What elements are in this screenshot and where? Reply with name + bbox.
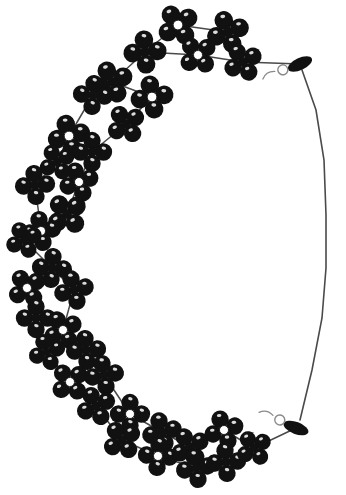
bead-highlight [170,424,175,427]
bead-highlight [156,416,161,419]
center-bead [65,377,75,387]
bead-highlight [82,282,87,285]
bead-highlight [63,118,68,121]
necklace-photograph: beaded-necklace [0,0,346,495]
bead-highlight [74,296,79,299]
bead-highlight [78,127,83,130]
bead-highlight [148,430,153,433]
bead-highlight [60,288,65,291]
flower-cluster [103,421,142,460]
flower-cluster [107,105,146,144]
flower-cluster [236,430,272,466]
bead-highlight [68,274,73,277]
necklace-illustration [0,0,346,495]
bead-highlight [54,133,59,136]
center-bead [193,50,203,60]
center-bead [62,209,72,219]
flower-cluster [180,37,216,73]
bead-highlight [69,142,74,145]
